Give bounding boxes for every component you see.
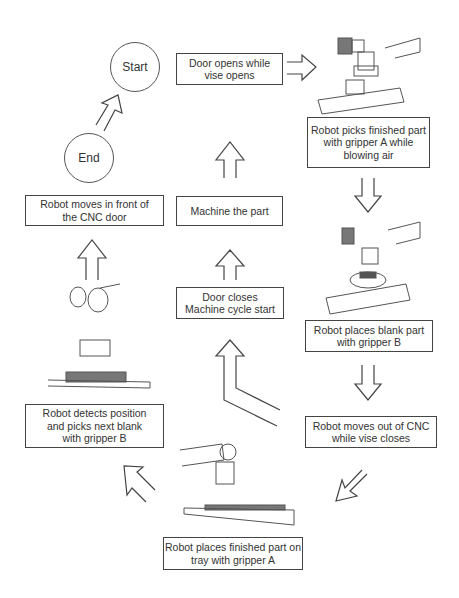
arrow-bent-up — [216, 340, 280, 426]
robot-illustration-top — [318, 38, 420, 114]
arrow-up-2 — [216, 142, 244, 178]
arrow-end-to-start — [96, 95, 122, 131]
step-moves-out: Robot moves out of CNC while vise closes — [305, 416, 437, 448]
arrow-up-left — [124, 466, 155, 502]
step-door-opens: Door opens while vise opens — [176, 53, 283, 85]
step-moves-front: Robot moves in front of the CNC door — [25, 195, 164, 226]
step-detects: Robot detects position and picks next bl… — [25, 404, 164, 448]
end-label: End — [78, 151, 99, 165]
arrow-down-1 — [355, 178, 381, 212]
step-machine: Machine the part — [176, 196, 283, 226]
step-places-tray: Robot places finished part on tray with … — [163, 537, 303, 570]
arrow-up-1 — [78, 240, 106, 280]
start-node: Start — [110, 42, 160, 92]
step-door-closes: Door closes Machine cycle start — [176, 287, 284, 319]
robot-illustration-middle — [326, 222, 420, 314]
robot-illustration-left — [48, 284, 150, 388]
step-places-blank: Robot places blank part with gripper B — [305, 320, 433, 352]
arrow-down-left — [336, 470, 367, 501]
arrow-down-2 — [355, 365, 381, 400]
start-label: Start — [122, 60, 147, 74]
arrow-up-3 — [216, 250, 244, 280]
arrow-right-top — [287, 55, 316, 80]
robot-illustration-bottom — [180, 444, 294, 525]
step-picks-finished: Robot picks finished part with gripper A… — [307, 117, 430, 168]
end-node: End — [64, 133, 114, 183]
